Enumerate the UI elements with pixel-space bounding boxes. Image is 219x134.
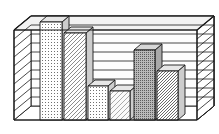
chart-canvas [0,0,219,134]
bar-4 [110,85,137,120]
bar-6 [157,65,185,120]
bar-front-face-1 [40,22,62,120]
bar-front-face-4 [110,91,130,120]
bar-front-face-2 [64,33,86,120]
bar-front-face-5 [134,50,155,120]
bar-front-face-3 [88,86,108,120]
bar-chart-figure [0,0,219,134]
bar-front-face-6 [157,71,178,120]
bar-side-face-6 [178,65,185,120]
